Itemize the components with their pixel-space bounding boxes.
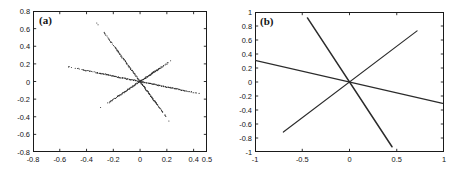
data-point bbox=[170, 60, 171, 61]
data-point bbox=[91, 71, 92, 72]
data-point bbox=[107, 37, 108, 38]
x-tick-label: -0.5 bbox=[296, 155, 309, 164]
data-point bbox=[135, 76, 136, 77]
data-point bbox=[124, 59, 125, 60]
data-point bbox=[89, 71, 90, 72]
x-tick-label: -0.6 bbox=[53, 155, 66, 164]
y-tick-label: -0.4 bbox=[239, 106, 252, 115]
x-tick-label: -1 bbox=[252, 155, 259, 164]
data-point bbox=[185, 90, 186, 91]
data-point bbox=[191, 91, 192, 92]
data-point bbox=[167, 62, 168, 63]
data-point bbox=[112, 43, 113, 44]
data-point bbox=[116, 76, 117, 77]
data-point bbox=[79, 68, 80, 69]
data-point bbox=[162, 66, 163, 67]
data-point bbox=[165, 64, 166, 65]
data-point bbox=[159, 107, 160, 108]
y-tick-label: 0.4 bbox=[242, 50, 252, 59]
data-point bbox=[195, 92, 196, 93]
data-point bbox=[142, 85, 143, 86]
data-point bbox=[131, 79, 132, 80]
data-point bbox=[97, 72, 98, 73]
data-point bbox=[151, 97, 152, 98]
data-point bbox=[138, 82, 139, 83]
x-tick-label: 0.2 bbox=[162, 155, 172, 164]
data-point bbox=[127, 63, 128, 64]
y-tick-label: 0.8 bbox=[242, 22, 252, 31]
data-point bbox=[100, 107, 101, 108]
data-point bbox=[69, 66, 70, 67]
x-tick-label: 0 bbox=[347, 155, 351, 164]
data-point bbox=[159, 85, 160, 86]
data-point bbox=[162, 111, 163, 112]
data-point bbox=[125, 78, 126, 79]
data-point bbox=[140, 81, 141, 82]
data-point bbox=[154, 84, 155, 85]
data-point bbox=[127, 78, 128, 79]
data-point bbox=[121, 57, 122, 58]
data-point bbox=[133, 80, 134, 81]
data-point bbox=[188, 91, 189, 92]
data-point bbox=[165, 116, 166, 117]
y-tick-label: 0.2 bbox=[242, 64, 252, 73]
x-tick-label: 0 bbox=[138, 155, 142, 164]
data-point bbox=[166, 64, 167, 65]
data-point bbox=[117, 95, 118, 96]
y-tick-label: -1 bbox=[245, 148, 252, 157]
data-point bbox=[168, 86, 169, 87]
data-point bbox=[145, 76, 146, 77]
data-point bbox=[85, 70, 86, 71]
data-point bbox=[136, 76, 137, 77]
data-point bbox=[120, 94, 121, 95]
data-point bbox=[107, 35, 108, 36]
data-point bbox=[166, 86, 167, 87]
data-point bbox=[105, 33, 106, 34]
data-point bbox=[108, 74, 109, 75]
y-tick-label: -0.2 bbox=[239, 92, 252, 101]
data-point bbox=[109, 39, 110, 40]
data-point bbox=[184, 90, 185, 91]
data-point bbox=[119, 54, 120, 55]
data-point bbox=[120, 77, 121, 78]
data-point bbox=[199, 93, 200, 94]
data-point bbox=[110, 42, 111, 43]
data-point bbox=[94, 71, 95, 72]
y-tick-label: 0 bbox=[248, 78, 252, 87]
data-point bbox=[130, 69, 131, 70]
x-tick-label: 0.5 bbox=[392, 155, 402, 164]
figure-canvas: (a) -0.8-0.6-0.4-0.200.20.40.5 -0.8-0.6-… bbox=[0, 0, 452, 179]
data-point bbox=[122, 77, 123, 78]
point-cloud-direction-3-shallow-negative bbox=[68, 66, 207, 96]
panel-label-a: (a) bbox=[39, 14, 52, 26]
data-point bbox=[181, 90, 182, 91]
data-point bbox=[103, 74, 104, 75]
data-point bbox=[146, 82, 147, 83]
panel-b: (b) -1-0.500.51 -1-0.8-0.6-0.4-0.200.20.… bbox=[226, 0, 452, 179]
data-point bbox=[110, 75, 111, 76]
data-point bbox=[168, 120, 169, 121]
data-point bbox=[160, 109, 161, 110]
basis-line-direction-2-positive bbox=[283, 31, 417, 132]
y-tick-label: 0.4 bbox=[20, 42, 30, 51]
plot-area-a bbox=[33, 11, 207, 152]
data-point bbox=[161, 110, 162, 111]
data-point bbox=[189, 91, 190, 92]
data-point bbox=[165, 86, 166, 87]
data-point bbox=[102, 73, 103, 74]
data-point bbox=[114, 98, 115, 99]
data-point bbox=[193, 92, 194, 93]
data-point bbox=[105, 35, 106, 36]
data-point bbox=[136, 80, 137, 81]
data-point bbox=[92, 71, 93, 72]
data-point bbox=[130, 68, 131, 69]
data-point bbox=[78, 68, 79, 69]
data-point bbox=[179, 89, 180, 90]
y-tick-label: 0.6 bbox=[242, 36, 252, 45]
data-point bbox=[156, 84, 157, 85]
data-point bbox=[100, 73, 101, 74]
data-point bbox=[111, 42, 112, 43]
data-point bbox=[107, 102, 108, 103]
data-point bbox=[172, 87, 173, 88]
data-point bbox=[134, 74, 135, 75]
